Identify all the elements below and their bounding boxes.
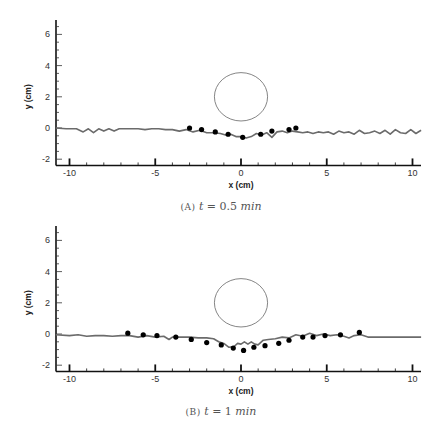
y-tick-label: 0 (45, 123, 50, 133)
x-tick-label: 0 (238, 168, 243, 178)
y-tick-label: -2 (42, 154, 50, 164)
data-point-marker (258, 132, 263, 137)
data-point-marker (322, 333, 327, 338)
y-tick-label: 6 (45, 235, 50, 245)
interface-line (56, 128, 421, 138)
data-point-marker (338, 332, 343, 337)
bubble-circle (214, 73, 267, 121)
data-point-marker (269, 129, 274, 134)
data-point-marker (173, 335, 178, 340)
x-tick-label: -5 (151, 374, 159, 384)
interface-line (56, 333, 421, 347)
chart-b: -20246-10-50510x (cm)y (cm) (0, 206, 442, 401)
chart-a: -20246-10-50510x (cm)y (cm) (0, 0, 442, 195)
y-axis-label: y (cm) (23, 290, 33, 315)
data-point-marker (240, 135, 245, 140)
data-point-marker (226, 132, 231, 137)
data-point-marker (357, 330, 362, 335)
data-point-marker (219, 342, 224, 347)
x-tick-label: 5 (324, 168, 329, 178)
y-tick-label: 4 (45, 61, 50, 71)
data-point-marker (241, 348, 246, 353)
data-point-marker (276, 341, 281, 346)
caption-b-label: (B) (186, 407, 201, 417)
x-tick-label: -10 (63, 374, 76, 384)
x-tick-label: -10 (63, 168, 76, 178)
y-tick-label: 2 (45, 298, 50, 308)
data-point-marker (310, 335, 315, 340)
data-point-marker (189, 337, 194, 342)
caption-b-eq: = (212, 405, 221, 418)
data-point-marker (141, 332, 146, 337)
data-point-marker (204, 340, 209, 345)
caption-b-var: t (204, 405, 208, 418)
y-tick-label: 2 (45, 92, 50, 102)
data-point-marker (262, 343, 267, 348)
data-point-marker (199, 127, 204, 132)
data-point-marker (187, 125, 192, 130)
x-axis-label: x (cm) (228, 386, 253, 396)
panel-b: -20246-10-50510x (cm)y (cm) (0, 206, 442, 406)
data-point-marker (286, 338, 291, 343)
caption-b-unit: min (235, 405, 256, 418)
y-tick-label: 4 (45, 267, 50, 277)
x-tick-label: 10 (407, 168, 417, 178)
caption-b: (B) t = 1 min (0, 405, 442, 418)
y-tick-label: 6 (45, 29, 50, 39)
x-tick-label: -5 (151, 168, 159, 178)
data-point-marker (300, 335, 305, 340)
y-tick-label: 0 (45, 329, 50, 339)
data-point-marker (125, 331, 130, 336)
y-tick-label: -2 (42, 360, 50, 370)
panel-a: -20246-10-50510x (cm)y (cm) (0, 0, 442, 220)
x-tick-label: 0 (238, 374, 243, 384)
x-tick-label: 10 (407, 374, 417, 384)
y-axis-label: y (cm) (23, 84, 33, 109)
bubble-circle (214, 279, 267, 327)
caption-b-value: 1 (225, 405, 232, 418)
data-point-marker (286, 127, 291, 132)
data-point-marker (154, 333, 159, 338)
data-point-marker (293, 125, 298, 130)
x-axis-label: x (cm) (228, 180, 253, 190)
data-point-marker (213, 129, 218, 134)
x-tick-label: 5 (324, 374, 329, 384)
data-point-marker (231, 345, 236, 350)
data-point-marker (251, 345, 256, 350)
